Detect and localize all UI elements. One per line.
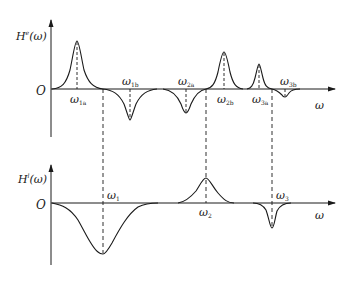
connector-lines <box>103 89 272 253</box>
marker-label-w1: ω1 <box>107 190 120 202</box>
diagram-graphics <box>0 0 356 285</box>
upper-origin-label: O <box>36 85 46 97</box>
lower-x-axis-label: ω <box>315 210 324 221</box>
marker-label-w2b: ω2b <box>217 94 234 106</box>
lower-axes <box>51 165 335 265</box>
upper-curve <box>52 41 300 120</box>
marker-label-w1b: ω1b <box>122 76 139 88</box>
upper-y-axis-label: He(ω) <box>16 30 47 42</box>
frequency-response-diagram: He(ω) O ω ω1a ω1b ω2a ω2b ω3a ω3b Hl(ω) … <box>0 0 356 285</box>
marker-label-w3: ω3 <box>276 190 289 202</box>
marker-label-w3b: ω3b <box>280 76 297 88</box>
upper-x-axis-label: ω <box>315 100 324 111</box>
lower-origin-label: O <box>36 199 46 211</box>
marker-label-w2: ω2 <box>199 207 212 219</box>
lower-y-axis-label: Hl(ω) <box>18 173 47 185</box>
lower-curve <box>52 178 291 254</box>
marker-label-w2a: ω2a <box>178 76 194 88</box>
marker-label-w3a: ω3a <box>252 94 268 106</box>
marker-label-w1a: ω1a <box>70 94 86 106</box>
